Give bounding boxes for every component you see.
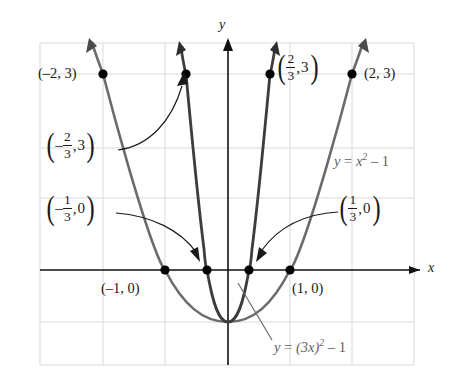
fraction: 1 3 [348, 193, 357, 224]
label-point-neg2-3: (–2, 3) [38, 66, 77, 81]
label-point-neg-one-third-0: ( – 1 3 , 0 ) [45, 193, 96, 224]
equation-lhs: y [274, 339, 280, 355]
y-axis-label: y [219, 18, 225, 32]
fraction: 2 3 [63, 130, 72, 161]
equation-transformed-parabola: y = (3x)2 – 1 [274, 338, 346, 354]
point-neg1-0 [160, 265, 169, 274]
label-point-one-third-0: ( 1 3 , 0 ) [338, 193, 382, 224]
coord-second-value: 0 [78, 201, 86, 216]
label-point-neg1-0: (–1, 0) [101, 281, 140, 296]
point-two-thirds-3 [265, 69, 274, 78]
fraction: 1 3 [63, 193, 72, 224]
graph-figure: y x (–2, 3) (2, 3) (–1, 0) (1, 0) ( – 2 … [0, 0, 451, 386]
paren-close: ) [87, 196, 95, 220]
equation-minus: – [328, 339, 335, 355]
leader-arrows [116, 72, 338, 340]
paren-close: ) [310, 55, 318, 79]
fraction-sign: – [55, 201, 63, 216]
label-point-neg-two-thirds-3: ( – 2 3 , 3 ) [45, 130, 96, 161]
coord-comma: , [296, 59, 300, 76]
equation-minus: – [371, 153, 378, 169]
fraction-denominator: 3 [286, 69, 295, 83]
paren-close: ) [87, 133, 95, 157]
coord-second-value: 0 [363, 201, 371, 216]
point-2-3 [347, 69, 356, 78]
fraction-numerator: 1 [348, 193, 357, 207]
leader-line-transformed-equation [238, 283, 272, 340]
paren-open: ( [278, 55, 286, 79]
point-neg-one-third-0 [202, 265, 211, 274]
point-one-third-0 [244, 265, 253, 274]
paren-open: ( [340, 196, 348, 220]
coord-comma: , [73, 137, 77, 154]
paren-open: ( [47, 133, 55, 157]
equation-equals: = [344, 153, 352, 169]
equation-exponent: 2 [319, 337, 324, 348]
fraction-numerator: 2 [63, 130, 72, 144]
leader-arrow-neg-two-thirds [118, 86, 182, 150]
fraction-denominator: 3 [63, 210, 72, 224]
fraction-denominator: 3 [63, 147, 72, 161]
label-point-two-thirds-3: ( 2 3 , 3 ) [276, 52, 320, 83]
fraction-sign: – [55, 138, 63, 153]
label-point-2-3: (2, 3) [364, 66, 395, 81]
leader-arrow-neg-one-third [116, 213, 196, 252]
point-neg2-3 [98, 69, 107, 78]
equation-constant: 1 [382, 153, 389, 169]
x-axis-label: x [428, 261, 434, 275]
coord-second-value: 3 [301, 60, 309, 75]
fraction-denominator: 3 [348, 210, 357, 224]
paren-open: ( [47, 196, 55, 220]
equation-exponent: 2 [362, 151, 367, 162]
equation-equals: = [284, 339, 292, 355]
paren-close: ) [372, 196, 380, 220]
coord-comma: , [358, 200, 362, 217]
coord-comma: , [73, 200, 77, 217]
fraction-numerator: 2 [286, 52, 295, 66]
fraction-numerator: 1 [63, 193, 72, 207]
equation-lhs: y [334, 153, 340, 169]
equation-base: (3x) [296, 339, 319, 355]
equation-parent-parabola: y = x2 – 1 [334, 152, 389, 168]
fraction: 2 3 [286, 52, 295, 83]
equation-constant: 1 [339, 339, 346, 355]
label-point-1-0: (1, 0) [292, 281, 323, 296]
coord-second-value: 3 [78, 138, 86, 153]
point-1-0 [285, 265, 294, 274]
leader-arrow-one-third [262, 212, 338, 250]
y-axis-arrowhead [223, 38, 233, 51]
